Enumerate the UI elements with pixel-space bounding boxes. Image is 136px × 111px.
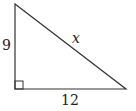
right-angle-marker bbox=[15, 81, 23, 89]
hypotenuse-label: x bbox=[72, 30, 80, 46]
vertical-leg-label: 9 bbox=[2, 37, 11, 53]
triangle bbox=[15, 4, 126, 89]
triangle-diagram: 9 x 12 bbox=[0, 0, 136, 111]
horizontal-leg-label: 12 bbox=[61, 92, 79, 108]
